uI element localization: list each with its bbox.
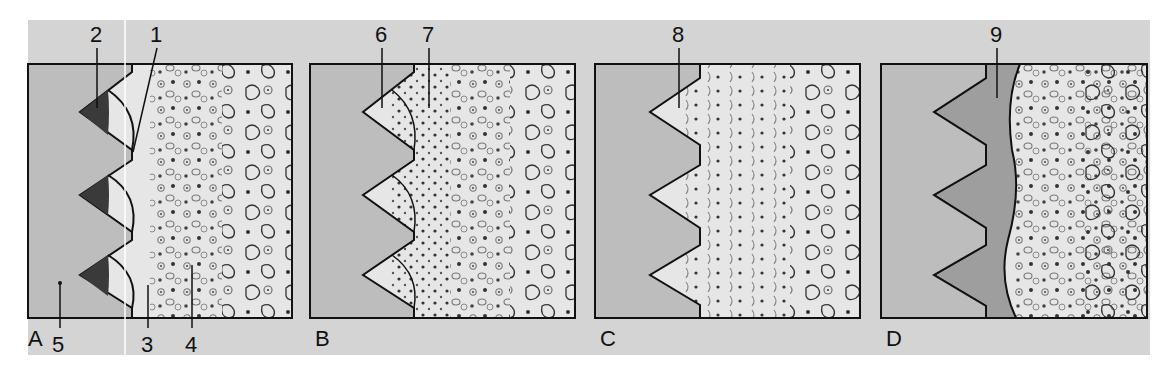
panel-b-dotted-layer (390, 64, 450, 318)
callout-1: 1 (150, 22, 162, 47)
callout-4: 4 (185, 332, 197, 357)
panel-b-blob-layer (510, 64, 575, 318)
panel-b: 6 7 B (310, 22, 575, 351)
panel-letter-c: C (600, 326, 616, 351)
panel-c-blob-layer (790, 64, 860, 318)
panel-letter-d: D (886, 326, 902, 351)
panel-b-cell-layer (450, 64, 510, 318)
callout-2: 2 (90, 22, 102, 47)
panel-a-cell-layer (150, 64, 222, 318)
callout-9: 9 (990, 22, 1002, 47)
callout-5: 5 (52, 332, 64, 357)
figure-diagram: 2 1 5 3 4 A 6 7 B 8 C (0, 0, 1165, 370)
callout-8: 8 (672, 22, 684, 47)
panel-d: 9 D (881, 22, 1147, 351)
panel-letter-a: A (28, 326, 43, 351)
panel-a: 2 1 5 3 4 A (28, 20, 292, 357)
callout-3: 3 (141, 332, 153, 357)
panel-d-blob-layer (1080, 64, 1147, 318)
panel-a-blob-layer (222, 64, 292, 318)
callout-7: 7 (422, 22, 434, 47)
panel-c-arc-layer (680, 64, 790, 318)
panel-c: 8 C (595, 22, 860, 351)
callout-6: 6 (375, 22, 387, 47)
panel-letter-b: B (315, 326, 330, 351)
